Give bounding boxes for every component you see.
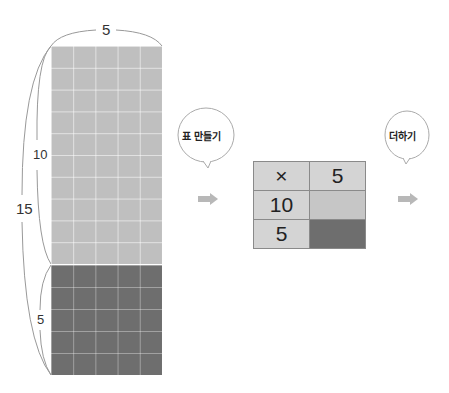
arrow-right-icon: [398, 193, 420, 205]
lower-height-label: 5: [35, 313, 46, 326]
table-cell-upper: [310, 191, 366, 220]
step-bubble-make-table: 표 만들기: [182, 128, 221, 143]
table-row: 5: [254, 220, 366, 249]
multiplication-table: × 5 10 5: [253, 161, 366, 249]
table-row: 10: [254, 191, 366, 220]
upper-height-label: 10: [31, 148, 49, 161]
total-height-label: 15: [14, 201, 35, 216]
step-bubble-add: 더하기: [389, 128, 416, 143]
arrow-right-icon: [198, 193, 220, 205]
table-row-label: 10: [254, 191, 310, 220]
table-row-label: 5: [254, 220, 310, 249]
table-header-row: × 5: [254, 162, 366, 191]
area-grid-lower: [51, 265, 162, 375]
table-operator-cell: ×: [254, 162, 310, 191]
width-label: 5: [100, 22, 112, 37]
table-header-cell: 5: [310, 162, 366, 191]
table-cell-lower: [310, 220, 366, 249]
area-grid-upper: [51, 46, 162, 264]
